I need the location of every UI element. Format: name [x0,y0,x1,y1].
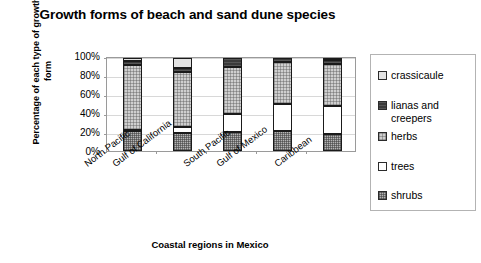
x-tick-mark [156,151,157,154]
y-tick-label: 40% [56,109,100,119]
y-tick-mark [104,134,107,135]
bar-segment-trees[interactable] [323,106,342,134]
legend-swatch-lianas-icon [378,101,387,110]
bar-segment-shrubs[interactable] [323,134,342,151]
bar-segment-trees[interactable] [173,127,192,134]
bar-gulf-of-california[interactable] [173,58,192,151]
bar-segment-crassicaule[interactable] [173,58,192,68]
y-tick-label: 100% [56,52,100,62]
bar-segment-herbs[interactable] [323,64,342,107]
legend-swatch-shrubs-icon [378,191,387,200]
bar-segment-crassicaule[interactable] [323,58,342,60]
legend-swatch-crassicaule-icon [378,71,387,80]
legend-swatch-trees-icon [378,162,387,171]
y-tick-mark [104,58,107,59]
legend-label: shrubs [391,189,423,202]
legend: crassicaule lianas and creepers herbs tr… [370,54,476,211]
x-axis-title: Coastal regions in Mexico [60,239,360,250]
bar-segment-herbs[interactable] [173,72,192,127]
bar-gulf-of-mexico[interactable] [273,58,292,151]
legend-item-trees[interactable]: trees [378,160,414,173]
y-axis-title: Percentage of each type of growth form [24,0,60,151]
legend-item-shrubs[interactable]: shrubs [378,189,423,202]
bar-segment-lianas-and-creepers[interactable] [273,58,292,62]
legend-label: crassicaule [391,69,444,82]
bar-segment-lianas-and-creepers[interactable] [123,61,142,66]
bar-segment-lianas-and-creepers[interactable] [323,60,342,64]
x-tick-mark [256,151,257,154]
bar-segment-herbs[interactable] [223,67,242,114]
legend-label: lianas and creepers [391,99,439,124]
y-tick-label: 20% [56,128,100,138]
legend-swatch-herbs-icon [378,132,387,141]
bar-caribbean[interactable] [323,58,342,151]
legend-item-lianas-and-creepers[interactable]: lianas and creepers [378,99,439,124]
y-tick-label: 60% [56,90,100,100]
legend-label: trees [391,160,414,173]
x-tick-mark [306,151,307,154]
legend-item-herbs[interactable]: herbs [378,130,417,143]
bar-segment-shrubs[interactable] [173,133,192,151]
y-tick-label: 80% [56,71,100,81]
y-tick-mark [104,77,107,78]
y-tick-mark [104,96,107,97]
bar-segment-crassicaule[interactable] [123,58,142,61]
y-tick-mark [104,115,107,116]
bar-segment-trees[interactable] [273,104,292,131]
bar-segment-herbs[interactable] [273,62,292,104]
bar-segment-lianas-and-creepers[interactable] [173,68,192,72]
bar-segment-herbs[interactable] [123,65,142,129]
legend-item-crassicaule[interactable]: crassicaule [378,69,444,82]
legend-label: herbs [391,130,417,143]
bar-segment-lianas-and-creepers[interactable] [223,58,242,67]
